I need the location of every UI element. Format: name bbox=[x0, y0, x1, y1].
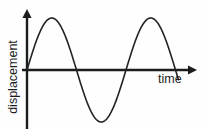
wave-diagram-figure: displacement time bbox=[0, 0, 207, 129]
wave-diagram-canvas bbox=[0, 0, 207, 129]
arrow-up-icon bbox=[22, 9, 31, 18]
arrow-right-icon bbox=[188, 65, 197, 74]
x-axis-label: time bbox=[158, 73, 182, 86]
y-axis-label: displacement bbox=[7, 40, 20, 114]
